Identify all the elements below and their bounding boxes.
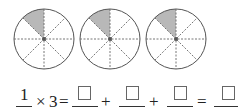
times-sign: × — [36, 93, 46, 109]
circle-3 — [146, 9, 206, 69]
multiplier: 3 — [49, 93, 58, 109]
fraction-bar — [167, 106, 193, 107]
fraction-circles-figure — [0, 0, 238, 80]
equals-sign-2: = — [197, 93, 207, 109]
fraction-bar — [119, 106, 145, 107]
plus-sign-1: + — [101, 93, 111, 109]
circle-2 — [80, 9, 140, 69]
fraction-bar — [214, 106, 238, 107]
fraction-bar — [72, 106, 98, 107]
equals-sign-1: = — [59, 93, 69, 109]
equation-row: 1 × 3 = + + = — [0, 84, 238, 109]
answer-blank-1[interactable] — [78, 86, 91, 100]
answer-blank-4[interactable] — [222, 86, 235, 100]
fraction-numerator: 1 — [20, 86, 29, 103]
answer-blank-3[interactable] — [174, 86, 187, 100]
circle-1 — [14, 9, 74, 69]
answer-blank-2[interactable] — [126, 86, 139, 100]
fraction-bar — [16, 106, 32, 107]
plus-sign-2: + — [149, 93, 159, 109]
